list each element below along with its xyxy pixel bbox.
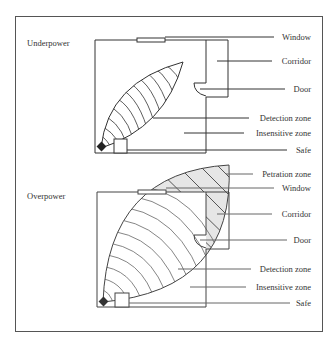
panel-title-underpower: Underpower <box>27 38 69 48</box>
label-corridor: Corridor <box>282 56 311 66</box>
label-insensitive-zone: Insensitive zone <box>256 128 311 138</box>
label-window: Window <box>282 32 311 42</box>
panel-title-overpower: Overpower <box>27 191 65 201</box>
window <box>138 190 166 194</box>
label-corridor: Corridor <box>282 209 311 219</box>
label-detection-zone: Detection zone <box>260 113 311 123</box>
label-door: Door <box>294 84 311 94</box>
label-window: Window <box>282 183 311 193</box>
corridor-wall <box>206 40 228 97</box>
sensor-icon <box>99 297 109 307</box>
room-wall <box>95 40 206 153</box>
safe <box>115 293 129 307</box>
label-door: Door <box>294 235 311 245</box>
sensor-icon <box>97 142 107 152</box>
label-safe: Safe <box>296 145 311 155</box>
label-safe: Safe <box>296 298 311 308</box>
door-notch <box>194 235 206 248</box>
label-petration-zone: Petration zone <box>262 169 311 179</box>
label-detection-zone: Detection zone <box>260 264 311 274</box>
safe <box>114 139 127 153</box>
window <box>137 38 165 42</box>
label-insensitive-zone: Insensitive zone <box>256 282 311 292</box>
